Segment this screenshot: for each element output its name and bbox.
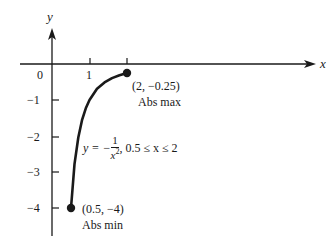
- y-tick-label-neg3: −3: [27, 166, 40, 178]
- abs-max-coords: (2, −0.25): [132, 80, 180, 92]
- y-tick-label-neg2: −2: [27, 131, 40, 143]
- abs-max-label: Abs max: [138, 96, 181, 108]
- y-axis-label: y: [47, 10, 53, 23]
- equation-lhs: y = −: [83, 141, 111, 155]
- equation-label: y = −1x2, 0.5 ≤ x ≤ 2: [83, 135, 178, 161]
- origin-label: 0: [37, 69, 43, 81]
- plot-canvas: [0, 0, 333, 245]
- y-tick-label-neg1: −1: [27, 94, 40, 106]
- x-axis-label: x: [320, 57, 326, 70]
- abs-min-point: [67, 204, 75, 212]
- abs-min-label: Abs min: [82, 219, 123, 231]
- y-tick-label-neg4: −4: [27, 202, 40, 214]
- abs-min-coords: (0.5, −4): [82, 203, 124, 215]
- abs-max-point: [123, 69, 131, 77]
- equation-condition: , 0.5 ≤ x ≤ 2: [119, 141, 177, 155]
- x-tick-label-1: 1: [86, 69, 92, 81]
